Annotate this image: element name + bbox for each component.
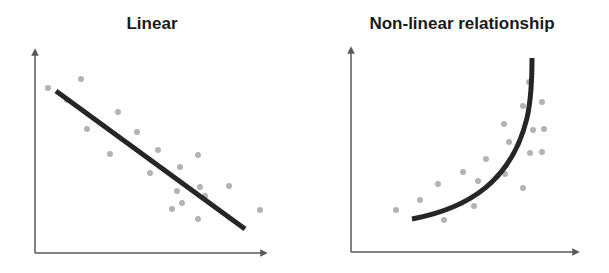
data-point xyxy=(541,126,547,132)
data-point xyxy=(115,109,121,115)
data-point xyxy=(435,181,441,187)
nonlinear-fit-curve xyxy=(412,58,532,219)
data-point xyxy=(475,178,481,184)
data-point xyxy=(155,147,161,153)
data-point xyxy=(539,149,545,155)
data-point xyxy=(169,206,175,212)
linear-points xyxy=(45,76,263,222)
chart-canvas xyxy=(0,0,609,273)
data-point xyxy=(78,76,84,82)
data-point xyxy=(195,152,201,158)
data-point xyxy=(134,129,140,135)
data-point xyxy=(257,207,263,213)
data-point xyxy=(177,164,183,170)
linear-axes xyxy=(35,52,264,253)
data-point xyxy=(506,139,512,145)
data-point xyxy=(174,188,180,194)
data-point xyxy=(226,183,232,189)
data-point xyxy=(84,126,90,132)
linear-fit-line xyxy=(56,91,245,229)
data-point xyxy=(147,170,153,176)
nonlinear-points xyxy=(393,79,547,223)
data-point xyxy=(471,203,477,209)
data-point xyxy=(501,121,507,127)
data-point xyxy=(539,99,545,105)
data-point xyxy=(195,216,201,222)
data-point xyxy=(417,197,423,203)
data-point xyxy=(520,185,526,191)
data-point xyxy=(197,184,203,190)
data-point xyxy=(527,150,533,156)
data-point xyxy=(393,207,399,213)
data-point xyxy=(530,127,536,133)
data-point xyxy=(441,217,447,223)
data-point xyxy=(460,169,466,175)
data-point xyxy=(483,156,489,162)
data-point xyxy=(520,103,526,109)
data-point xyxy=(45,85,51,91)
data-point xyxy=(107,151,113,157)
data-point xyxy=(179,200,185,206)
